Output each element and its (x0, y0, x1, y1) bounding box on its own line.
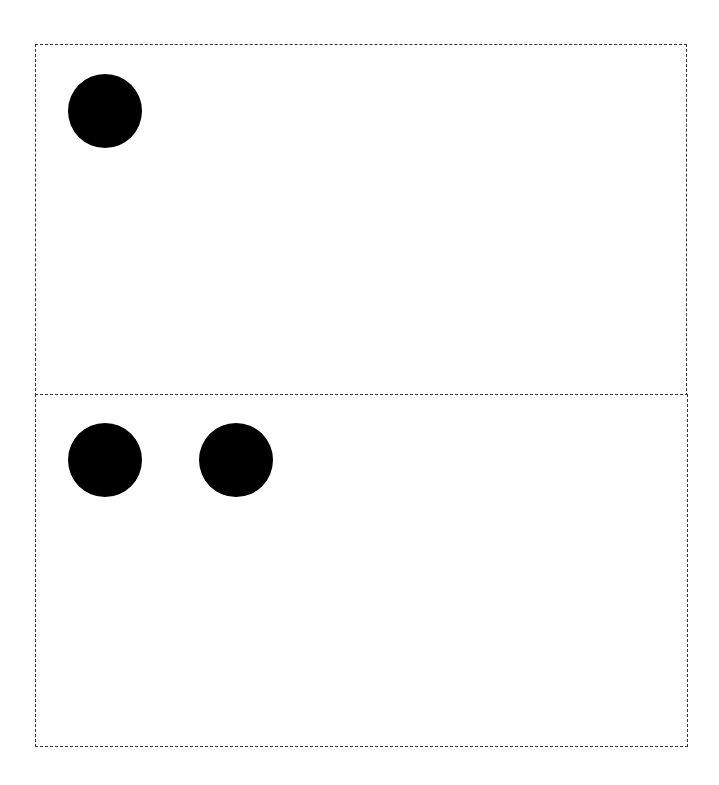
bottom-panel-dot-1 (68, 423, 142, 497)
bottom-panel-dot-2 (199, 423, 273, 497)
top-panel-dot-1 (68, 74, 142, 148)
